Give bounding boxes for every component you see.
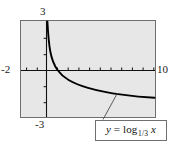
x-axis-ticks — [27, 68, 154, 71]
callout-leader-line — [103, 93, 118, 120]
equation-base: 1/3 — [138, 129, 149, 138]
leader-line — [103, 93, 118, 120]
x-axis — [21, 68, 155, 71]
equation-argument: x — [151, 123, 156, 135]
y-axis-min-label: -3 — [35, 119, 44, 130]
x-axis-min-label: -2 — [1, 64, 10, 75]
curve-path — [47, 22, 154, 98]
figure-container: 3 -2 10 -3 y = log1/3 x — [0, 0, 174, 146]
equation-callout-box: y = log1/3 x — [95, 120, 167, 141]
x-axis-max-label: 10 — [157, 64, 168, 75]
y-axis-max-label: 3 — [40, 6, 46, 17]
equation-function: log — [123, 123, 138, 135]
log-curve — [47, 22, 154, 98]
y-axis — [44, 21, 47, 117]
equation-label: y = log1/3 x — [106, 123, 156, 137]
